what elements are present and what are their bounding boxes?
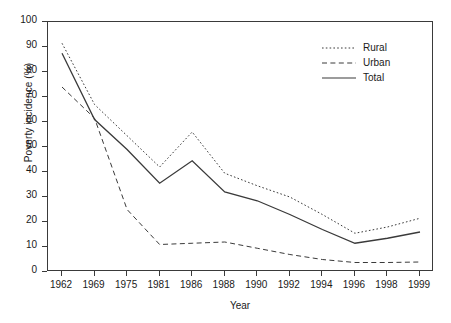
legend-label-rural: Rural	[363, 43, 387, 53]
legend-swatch-total-icon	[322, 73, 356, 83]
y-tick-label: 0	[31, 264, 37, 275]
y-tick-label: 10	[26, 239, 37, 250]
legend-label-total: Total	[363, 73, 384, 83]
y-tick-label: 60	[26, 114, 37, 125]
y-tick-label: 70	[26, 89, 37, 100]
series-line-urban	[62, 87, 420, 263]
y-tick-label: 40	[26, 164, 37, 175]
poverty-incidence-line-chart: Poverty incidence (%) Year 0102030405060…	[0, 0, 451, 323]
x-axis-title: Year	[47, 300, 433, 311]
legend-item-urban: Urban	[322, 55, 390, 70]
legend-label-urban: Urban	[363, 58, 390, 68]
y-tick-label: 20	[26, 214, 37, 225]
y-tick-mark	[42, 271, 47, 272]
legend-item-rural: Rural	[322, 40, 390, 55]
y-tick-label: 80	[26, 64, 37, 75]
legend-item-total: Total	[322, 70, 390, 85]
legend: Rural Urban Total	[322, 40, 390, 85]
y-tick-label: 100	[20, 14, 37, 25]
y-tick-label: 90	[26, 39, 37, 50]
y-tick-label: 50	[26, 139, 37, 150]
y-tick-label: 30	[26, 189, 37, 200]
x-tick-label: 1999	[399, 279, 439, 290]
legend-swatch-rural-icon	[322, 43, 356, 53]
legend-swatch-urban-icon	[322, 58, 356, 68]
